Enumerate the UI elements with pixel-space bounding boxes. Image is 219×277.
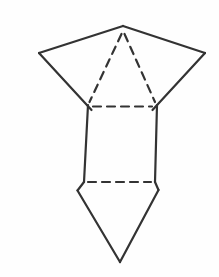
- edge-left-lower-slant: [39, 53, 92, 110]
- edge-hidden-right-diagonal: [125, 34, 156, 102]
- edge-bottom-left-flare: [78, 182, 85, 191]
- edge-bottom-right-flare: [155, 182, 159, 190]
- edge-left-vertical: [84, 105, 88, 182]
- edge-right-lower-slant: [153, 53, 206, 110]
- edge-top-left-slant: [39, 26, 123, 53]
- edge-bottom-left-slant: [78, 191, 121, 263]
- edge-right-vertical: [155, 105, 157, 182]
- edge-hidden-left-diagonal: [90, 34, 122, 102]
- edge-bottom-right-slant: [120, 190, 159, 262]
- figure-canvas: [0, 0, 219, 277]
- edge-top-right-slant: [123, 26, 205, 53]
- geometric-solid-diagram: [0, 0, 219, 277]
